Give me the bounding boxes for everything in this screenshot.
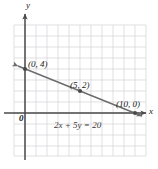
point-label-5-2: (5, 2) [70, 81, 90, 90]
point-0-4 [23, 67, 27, 71]
point-label-0-4: (0, 4) [28, 60, 48, 69]
line-equation-label: 2x + 5y = 20 [54, 121, 101, 130]
x-axis-label: x [149, 107, 153, 116]
point-10-0 [133, 111, 137, 115]
y-axis-label: y [26, 1, 30, 10]
point-label-10-0: (10, 0) [116, 100, 140, 109]
graph-figure: y x 0 (0, 4) (5, 2) (10, 0) 2x + 5y = 20 [0, 0, 158, 169]
origin-label: 0 [19, 114, 24, 123]
